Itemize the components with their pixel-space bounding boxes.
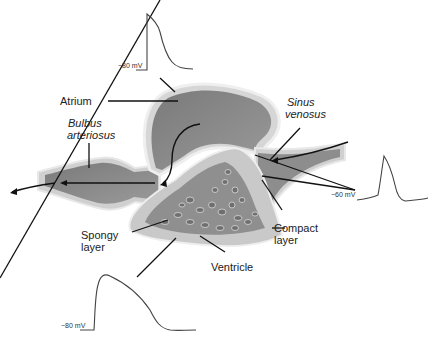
sinus-venosus-label-line2: venosus <box>285 108 326 121</box>
sinus-resting-potential-label: −60 mV <box>331 191 355 198</box>
ventricular-ap-trace <box>80 275 196 331</box>
sinus-ap-trace <box>357 156 428 201</box>
compact-layer-label-line2: layer <box>274 234 298 247</box>
ventricular-resting-potential-label: −80 mV <box>61 322 85 329</box>
heart-illustration <box>0 0 443 345</box>
atrial-ap-trace <box>136 14 193 70</box>
ventricle-label: Ventricle <box>211 261 253 274</box>
spongy-layer-label-line2: layer <box>81 241 105 254</box>
atrium-label: Atrium <box>60 95 92 108</box>
atrial-resting-potential-label: −80 mV <box>118 62 142 69</box>
bulbus-arteriosus-label-line2: arteriosus <box>67 129 115 142</box>
heart-diagram: Atrium Bulbus arteriosus Sinus venosus S… <box>0 0 443 345</box>
